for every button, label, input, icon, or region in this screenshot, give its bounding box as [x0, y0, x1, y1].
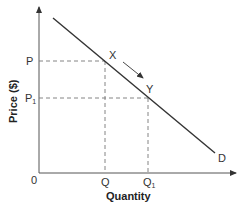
movement-arrow-icon: [123, 62, 143, 78]
price-tick-p: P: [26, 55, 33, 67]
origin-label: 0: [31, 174, 37, 186]
point-x-label: X: [109, 49, 117, 61]
quantity-tick-q1: Q1: [143, 176, 156, 189]
curve-d-label: D: [218, 152, 226, 164]
x-axis-title: Quantity: [106, 190, 151, 202]
demand-diagram: X Y D P P1 0 Q Q1 Quantity Price ($): [0, 0, 244, 209]
y-axis-title: Price ($): [7, 79, 19, 123]
demand-curve: [53, 18, 215, 153]
quantity-tick-q: Q: [101, 176, 110, 188]
point-y-label: Y: [146, 83, 154, 95]
price-tick-p1: P1: [25, 92, 36, 105]
